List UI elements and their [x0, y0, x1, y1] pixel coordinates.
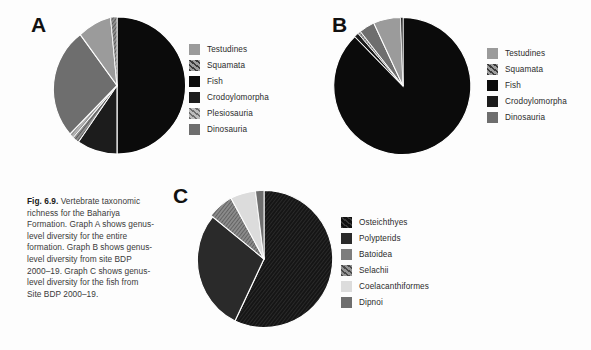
pie-b-svg [333, 16, 473, 156]
legend-label: Squamata [207, 61, 245, 71]
legend-item[interactable]: Polypterids [341, 231, 429, 246]
legend-label: Fish [207, 77, 223, 87]
pie-c-slices [197, 190, 332, 327]
legend-swatch-squamata [189, 60, 200, 71]
legend-item[interactable]: Testudines [487, 46, 567, 61]
legend-swatch-testudines [189, 44, 200, 55]
legend-item[interactable]: Coelacanthiformes [341, 279, 429, 294]
legend-label: Dinosauria [505, 113, 545, 123]
legend-item[interactable]: Crodoylomorpha [487, 94, 567, 109]
legend-item[interactable]: Dinosauria [189, 122, 269, 137]
legend-swatch-squamata [487, 64, 498, 75]
legend-swatch-osteichthyes [341, 217, 352, 228]
legend-swatch-fish [487, 80, 498, 91]
legend-swatch-polypterids [341, 233, 352, 244]
legend-item[interactable]: Osteichthyes [341, 215, 429, 230]
legend-swatch-plesiosauria [189, 108, 200, 119]
legend-item[interactable]: Squamata [487, 62, 567, 77]
figure-caption-text: Vertebrate taxonomic richness for the Ba… [27, 196, 154, 299]
legend-item[interactable]: Crodoylomorpha [189, 90, 269, 105]
legend-swatch-batoidea [341, 249, 352, 260]
legend-item[interactable]: Squamata [189, 58, 269, 73]
legend-swatch-coelacanthiformes [341, 281, 352, 292]
legend-b: Testudines Squamata Fish Crodoylomorpha … [487, 46, 567, 126]
pie-chart-c [194, 181, 334, 337]
legend-item[interactable]: Fish [487, 78, 567, 93]
pie-a-svg [47, 13, 187, 158]
legend-label: Batoidea [359, 250, 392, 260]
legend-item[interactable]: Dipnoi [341, 295, 429, 310]
legend-label: Squamata [505, 65, 543, 75]
legend-swatch-selachii [341, 265, 352, 276]
legend-item[interactable]: Dinosauria [487, 110, 567, 125]
legend-label: Plesiosauria [207, 109, 253, 119]
legend-label: Coelacanthiformes [359, 282, 429, 292]
legend-item[interactable]: Selachii [341, 263, 429, 278]
legend-item[interactable]: Batoidea [341, 247, 429, 262]
legend-swatch-dipnoi [341, 297, 352, 308]
figure-caption-label: Fig. 6.9. [27, 196, 58, 206]
legend-swatch-testudines [487, 48, 498, 59]
legend-label: Testudines [505, 49, 545, 59]
legend-label: Selachii [359, 266, 388, 276]
pie-a-slices [53, 17, 185, 154]
pie-a-slice-fish [117, 17, 186, 154]
legend-swatch-crodoylomorpha [487, 96, 498, 107]
legend-label: Crodoylomorpha [207, 93, 269, 103]
legend-swatch-crodoylomorpha [189, 92, 200, 103]
legend-label: Polypterids [359, 234, 401, 244]
legend-swatch-fish [189, 76, 200, 87]
pie-chart-b [333, 16, 473, 156]
panel-c-letter: C [173, 185, 188, 206]
legend-a: Testudines Squamata Fish Crodoylomorpha … [189, 42, 269, 138]
legend-swatch-dinosauria [189, 124, 200, 135]
panel-b: B [300, 0, 591, 180]
legend-label: Dipnoi [359, 298, 383, 308]
legend-item[interactable]: Fish [189, 74, 269, 89]
pie-chart-a [47, 13, 187, 158]
legend-label: Osteichthyes [359, 218, 408, 228]
legend-item[interactable]: Plesiosauria [189, 106, 269, 121]
figure-root: A [0, 0, 591, 350]
legend-label: Fish [505, 81, 521, 91]
panel-c: C [155, 175, 591, 350]
panel-a-letter: A [31, 14, 46, 35]
legend-label: Crodoylomorpha [505, 97, 567, 107]
legend-label: Testudines [207, 45, 247, 55]
panel-a: A [0, 0, 300, 180]
figure-caption: Fig. 6.9. Vertebrate taxonomic richness … [27, 196, 155, 300]
pie-b-slices [334, 17, 471, 154]
legend-label: Dinosauria [207, 125, 247, 135]
legend-c: Osteichthyes Polypterids Batoidea Selach… [341, 215, 429, 311]
legend-swatch-dinosauria [487, 112, 498, 123]
pie-c-svg [194, 181, 334, 337]
legend-item[interactable]: Testudines [189, 42, 269, 57]
